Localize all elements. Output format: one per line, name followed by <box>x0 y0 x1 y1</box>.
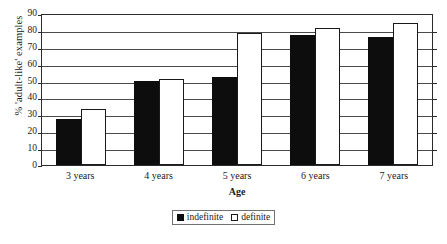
y-tick-label: 40 <box>7 93 37 103</box>
bar-indefinite-4-years <box>134 81 159 165</box>
bar-definite-7-years <box>393 23 418 165</box>
y-tick-mark-right <box>432 83 437 84</box>
bar-clusters <box>42 15 432 165</box>
y-tick-label: 30 <box>7 110 37 120</box>
legend-item-indefinite: indefinite <box>177 212 223 222</box>
bar-chart: % 'adult-like' examples 90 80 70 60 50 4… <box>0 0 447 244</box>
bar-definite-3-years <box>81 109 106 165</box>
y-tick-label: 20 <box>7 127 37 137</box>
y-axis-tick-labels: 90 80 70 60 50 40 30 20 10 0 <box>4 14 37 166</box>
y-tick-label: 80 <box>7 26 37 36</box>
y-tick-mark-right <box>432 133 437 134</box>
bar-cluster <box>354 15 432 165</box>
legend-box: indefinite definite <box>172 210 275 225</box>
y-tick-mark-right <box>432 116 437 117</box>
bar-cluster <box>198 15 276 165</box>
y-tick-mark-left <box>38 166 42 167</box>
y-tick-mark-right <box>432 32 437 33</box>
bar-definite-5-years <box>237 33 262 165</box>
x-axis-title: Age <box>41 186 433 197</box>
bar-cluster <box>120 15 198 165</box>
bar-indefinite-7-years <box>368 37 393 165</box>
y-tick-label: 70 <box>7 43 37 53</box>
x-axis-tick-labels: 3 years4 years5 years6 years7 years <box>41 170 433 181</box>
bar-indefinite-6-years <box>290 35 315 165</box>
bar-indefinite-3-years <box>56 119 81 165</box>
y-tick-label: 60 <box>7 60 37 70</box>
x-tick-label: 4 years <box>119 170 197 181</box>
legend-item-definite: definite <box>231 212 270 222</box>
bar-cluster <box>42 15 120 165</box>
bar-cluster <box>276 15 354 165</box>
x-tick-label: 6 years <box>276 170 354 181</box>
x-tick-label: 3 years <box>41 170 119 181</box>
y-tick-mark-right <box>432 99 437 100</box>
y-tick-label: 50 <box>7 77 37 87</box>
legend-label: definite <box>241 212 270 222</box>
y-tick-mark-right <box>432 150 437 151</box>
legend: indefinite definite <box>0 210 447 225</box>
filled-square-icon <box>177 214 184 221</box>
legend-label: indefinite <box>187 212 223 222</box>
x-tick-label: 5 years <box>198 170 276 181</box>
x-tick-label: 7 years <box>355 170 433 181</box>
plot-area <box>41 14 433 166</box>
bar-definite-4-years <box>159 79 184 165</box>
y-tick-label: 10 <box>7 144 37 154</box>
y-tick-label: 0 <box>7 161 37 171</box>
bar-indefinite-5-years <box>212 77 237 165</box>
y-tick-mark-right <box>432 49 437 50</box>
open-square-icon <box>231 214 238 221</box>
y-tick-mark-right <box>432 66 437 67</box>
bar-definite-6-years <box>315 28 340 165</box>
y-tick-label: 90 <box>7 9 37 19</box>
